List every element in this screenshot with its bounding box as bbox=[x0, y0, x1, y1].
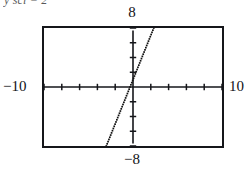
x-min-label: −10 bbox=[3, 78, 26, 95]
x-max-label: 10 bbox=[229, 78, 244, 95]
plot-canvas bbox=[44, 28, 222, 146]
plot-frame bbox=[42, 26, 224, 148]
y-min-label: −8 bbox=[0, 151, 252, 168]
graphing-calculator-figure: y scl = 2 8 −10 10 −8 bbox=[0, 0, 252, 177]
y-max-label: 8 bbox=[0, 4, 252, 21]
